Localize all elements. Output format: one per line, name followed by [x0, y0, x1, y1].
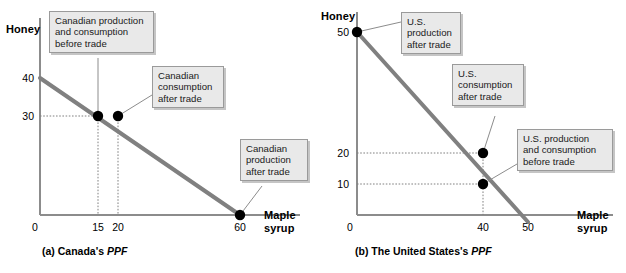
canada-point-consumption-after-trade[interactable]	[113, 111, 123, 121]
us-caption-prefix: (b) The United States's	[355, 245, 471, 257]
callout-us-consumption-after-trade[interactable]: U.S. consumption after trade	[452, 64, 524, 106]
us-y-axis-title: Honey	[321, 10, 355, 22]
us-point-production-after-trade[interactable]	[352, 27, 362, 37]
canada-leader-consumption-after	[118, 95, 152, 116]
us-ytick-20: 20	[331, 147, 349, 159]
canada-y-axis-title: Honey	[6, 23, 40, 35]
ppf-comparison-figure: Honey Maple syrup 40 30 0 15 20 60 Canad…	[0, 0, 626, 273]
us-origin-label: 0	[343, 221, 357, 233]
canada-xtick-15: 15	[89, 221, 107, 233]
us-leader-consumption-after	[483, 116, 495, 153]
canada-caption-prefix: (a) Canada's	[42, 245, 107, 257]
us-x-axis-title-line1: Maple	[577, 209, 609, 221]
canada-xtick-20: 20	[109, 221, 127, 233]
us-ppf-line	[357, 32, 528, 222]
canada-x-axis-title-line2: syrup	[264, 222, 294, 234]
canada-xtick-60: 60	[231, 221, 249, 233]
canada-point-production-after-trade[interactable]	[235, 210, 245, 220]
panel-canada-ppf: Honey Maple syrup 40 30 0 15 20 60 Canad…	[0, 0, 313, 273]
us-xtick-40: 40	[474, 221, 492, 233]
canada-x-axis-title-line1: Maple	[264, 209, 296, 221]
callout-us-before-trade[interactable]: U.S. production and consumption before t…	[517, 129, 613, 171]
callout-us-production-after-trade[interactable]: U.S. production after trade	[401, 12, 461, 54]
us-leader-production-after	[357, 22, 401, 32]
us-caption-italic: PPF	[471, 245, 491, 257]
us-point-consumption-after-trade[interactable]	[478, 148, 488, 158]
canada-caption-italic: PPF	[107, 245, 127, 257]
canada-ytick-40: 40	[16, 72, 34, 84]
canada-origin-label: 0	[28, 221, 42, 233]
canada-caption: (a) Canada's PPF	[42, 245, 127, 257]
callout-canada-consumption-after-trade[interactable]: Canadian consumption after trade	[152, 66, 224, 108]
canada-ytick-30: 30	[16, 110, 34, 122]
callout-canada-before-trade[interactable]: Canadian production and consumption befo…	[49, 11, 154, 53]
us-ytick-50: 50	[331, 26, 349, 38]
us-ytick-10: 10	[331, 178, 349, 190]
callout-canada-production-after-trade[interactable]: Canadian production after trade	[240, 139, 308, 181]
panel-united-states-ppf: Honey Maple syrup 50 20 10 0 40 50 U.S. …	[313, 0, 626, 273]
us-leader-before-trade	[483, 164, 517, 184]
us-xtick-50: 50	[519, 221, 537, 233]
us-caption: (b) The United States's PPF	[355, 245, 492, 257]
canada-leader-production-after	[240, 186, 262, 215]
us-point-before-trade[interactable]	[478, 179, 488, 189]
us-x-axis-title-line2: syrup	[577, 222, 607, 234]
canada-point-before-trade[interactable]	[93, 111, 103, 121]
